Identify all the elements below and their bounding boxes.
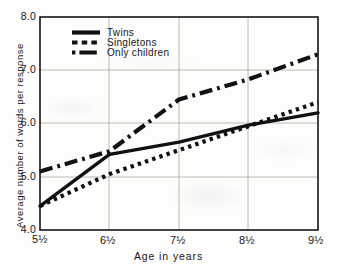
legend-label-only-children: Only children — [107, 47, 169, 58]
y-tick-label-8: 8.0 — [8, 10, 36, 22]
legend-swatches — [72, 33, 100, 53]
x-axis-title: Age in years — [0, 250, 337, 262]
x-tick-label-6h: 6½ — [100, 234, 116, 246]
x-tick-label-9h: 9½ — [308, 234, 324, 246]
y-axis-title: Average number of words per response — [14, 43, 25, 228]
x-tick-label-7h: 7½ — [170, 234, 186, 246]
chart-plot-area — [0, 0, 337, 268]
chart-figure: 8.0 7.0 6.0 5.0 4.0 5½ 6½ 7½ 8½ 9½ Age i… — [0, 0, 337, 268]
x-tick-label-8h: 8½ — [239, 234, 255, 246]
x-tick-label-5h: 5½ — [32, 233, 48, 245]
gridlines — [40, 17, 318, 230]
